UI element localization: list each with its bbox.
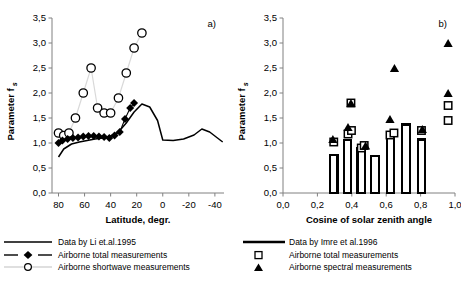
y-tick-label: 1,5 <box>264 112 277 123</box>
shortwave-marker <box>87 64 95 72</box>
panel-label: b) <box>439 18 447 29</box>
legend-item-triangle-b: Airborne spectral measurements <box>231 261 461 274</box>
shortwave-marker <box>114 94 122 102</box>
y-tick-label: 2,0 <box>33 87 46 98</box>
spectral-measurement-marker <box>385 115 394 123</box>
legend-item-diamond: Airborne total measurements <box>0 249 230 262</box>
chart-b-svg: 0,00,51,01,52,02,53,03,50,00,20,40,60,81… <box>231 0 461 225</box>
legend-label-total: Airborne total measurements <box>56 249 167 262</box>
total-measurement-marker <box>444 102 451 109</box>
total-measurement-marker <box>444 117 451 124</box>
bar <box>418 140 425 194</box>
y-tick-label: 2,5 <box>264 62 277 73</box>
total-measurement-marker <box>390 129 397 136</box>
thick-line-key <box>231 236 287 249</box>
bar <box>330 155 337 193</box>
shortwave-marker <box>122 69 130 77</box>
y-tick-label: 1,0 <box>33 137 46 148</box>
chart-panel-b: 0,00,51,01,52,02,53,03,50,00,20,40,60,81… <box>231 0 461 289</box>
x-tick-label: 0,2 <box>311 199 324 210</box>
y-tick-label: 3,5 <box>33 12 46 23</box>
y-tick-label: 0,5 <box>264 162 277 173</box>
chart-b-legend: Data by Imre et al.1996 Airborne total m… <box>231 236 461 274</box>
solid-line-key <box>0 236 56 249</box>
legend-label-spectral-b: Airborne spectral measurements <box>287 261 412 274</box>
legend-item-circle: Airborne shortwave measurements <box>0 261 230 274</box>
y-tick-label: 3,5 <box>264 12 277 23</box>
y-tick-label: 2,0 <box>264 87 277 98</box>
shortwave-marker <box>106 109 114 117</box>
legend-item-line-b: Data by Imre et al.1996 <box>231 236 461 249</box>
open-square-key <box>231 249 287 262</box>
spectral-measurement-marker <box>444 39 453 47</box>
shortwave-marker <box>138 29 146 37</box>
bar <box>358 148 365 193</box>
y-tick-label: 0,5 <box>33 162 46 173</box>
x-tick-label: 0,6 <box>380 199 393 210</box>
legend-label-total-b: Airborne total measurements <box>287 249 398 262</box>
y-axis-title: Parameter f s <box>236 82 249 140</box>
spectral-measurement-marker <box>390 64 399 72</box>
x-tick-label: 0 <box>160 199 165 210</box>
li-data-line <box>59 104 223 157</box>
chart-a-svg: 0,00,51,01,52,02,53,03,5806040200-20-40L… <box>0 0 230 225</box>
x-tick-label: 60 <box>79 199 90 210</box>
x-tick-label: 0,0 <box>276 199 289 210</box>
chart-panel-a: 0,00,51,01,52,02,53,03,5806040200-20-40L… <box>0 0 230 289</box>
y-tick-label: 0,0 <box>264 187 277 198</box>
x-tick-label: 40 <box>105 199 116 210</box>
x-tick-label: 0,8 <box>414 199 427 210</box>
x-axis-title: Latitude, degr. <box>106 214 171 225</box>
legend-label-li: Data by Li et.al.1995 <box>56 236 136 249</box>
panel-label: a) <box>208 18 216 29</box>
legend-item-square-b: Airborne total measurements <box>231 249 461 262</box>
filled-triangle-key <box>231 261 287 274</box>
bar <box>387 136 394 193</box>
dashed-diamond-key <box>0 249 56 262</box>
y-axis-title-sub: s <box>11 82 18 88</box>
chart-a-legend: Data by Li et.al.1995 Airborne total mea… <box>0 236 230 274</box>
y-tick-label: 2,5 <box>33 62 46 73</box>
legend-label-shortwave: Airborne shortwave measurements <box>56 261 190 274</box>
legend-item-line: Data by Li et.al.1995 <box>0 236 230 249</box>
x-tick-label: -40 <box>208 199 222 210</box>
open-circle-key <box>0 261 56 274</box>
spectral-measurement-marker <box>444 89 453 97</box>
figure-container: 0,00,51,01,52,02,53,03,5806040200-20-40L… <box>0 0 461 289</box>
shortwave-marker <box>71 114 79 122</box>
y-tick-label: 1,5 <box>33 112 46 123</box>
x-tick-label: -20 <box>182 199 196 210</box>
legend-label-imre: Data by Imre et al.1996 <box>287 236 377 249</box>
x-tick-label: 1,0 <box>448 199 461 210</box>
y-tick-label: 1,0 <box>264 137 277 148</box>
y-tick-label: 3,0 <box>33 37 46 48</box>
y-axis-title-sub: s <box>242 82 249 88</box>
bar <box>371 156 378 193</box>
y-axis-title: Parameter f s <box>5 82 18 140</box>
bar <box>402 125 409 194</box>
x-tick-label: 0,4 <box>345 199 358 210</box>
x-tick-label: 80 <box>53 199 64 210</box>
bar <box>344 140 351 193</box>
shortwave-marker <box>130 44 138 52</box>
y-tick-label: 0,0 <box>33 187 46 198</box>
shortwave-marker <box>79 89 87 97</box>
x-axis-title: Cosine of solar zenith angle <box>306 214 432 225</box>
y-tick-label: 3,0 <box>264 37 277 48</box>
x-tick-label: 20 <box>131 199 142 210</box>
